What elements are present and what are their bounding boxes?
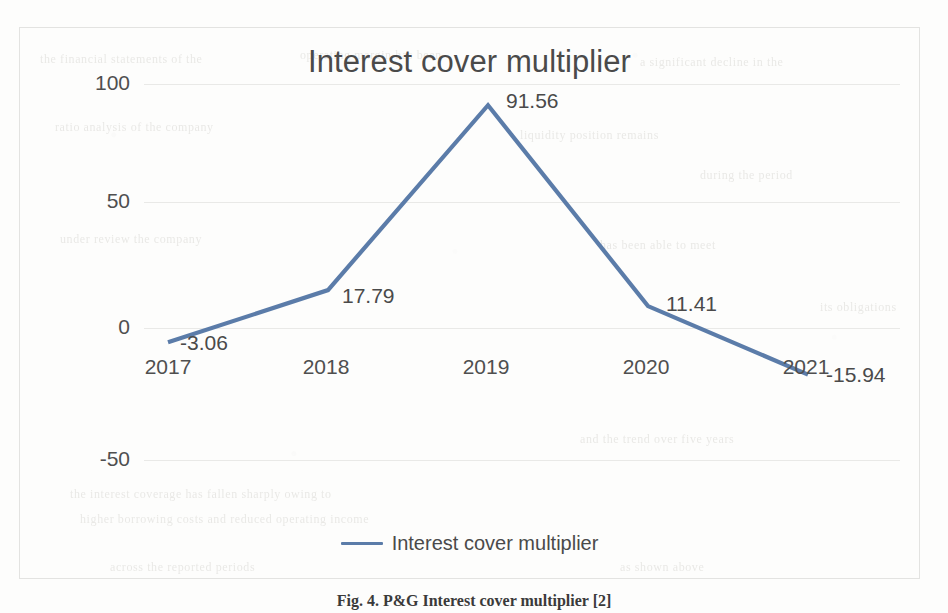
y-tick-label: 0: [44, 315, 130, 339]
x-tick-label-2021: 2021: [783, 355, 830, 379]
data-label-2020: 11.41: [666, 292, 717, 316]
data-label-2017: -3.06: [180, 331, 228, 355]
legend-label-interest-cover-multiplier: Interest cover multiplier: [392, 532, 599, 555]
y-tick-label: -50: [44, 447, 130, 471]
x-tick-label-2019: 2019: [463, 355, 510, 379]
scanned-page: the financial statements of the operatin…: [0, 0, 948, 613]
x-tick-label-2017: 2017: [145, 355, 192, 379]
legend-line-swatch-icon: [341, 542, 383, 545]
chart-title: Interest cover multiplier: [20, 44, 919, 80]
chart-legend: Interest cover multiplier: [20, 532, 919, 555]
plot-area: 100 50 0 -50 2017 2018 2019 2020 2021 -3…: [20, 28, 919, 578]
data-label-2019: 91.56: [506, 89, 559, 113]
x-tick-label-2018: 2018: [303, 355, 350, 379]
chart-container: Interest cover multiplier 100 50 0 -50: [19, 27, 920, 579]
data-label-2021: -15.94: [826, 363, 886, 387]
figure-caption: Fig. 4. P&G Interest cover multiplier [2…: [0, 592, 948, 610]
y-tick-label: 50: [44, 189, 130, 213]
line-series-interest-cover-multiplier: [20, 28, 919, 578]
x-tick-label-2020: 2020: [623, 355, 670, 379]
data-label-2018: 17.79: [342, 284, 395, 308]
